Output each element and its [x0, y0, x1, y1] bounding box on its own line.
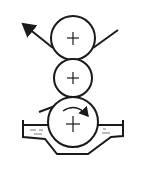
- bottom-roller: [48, 97, 98, 147]
- roll-stack-diagram: [0, 0, 145, 174]
- top-roller: [51, 16, 95, 60]
- middle-roller: [54, 59, 92, 97]
